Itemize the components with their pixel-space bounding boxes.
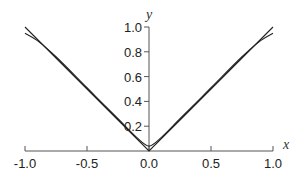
y-tick-label: 0.8 <box>124 45 142 60</box>
y-tick-label: 0.2 <box>124 119 142 134</box>
y-tick-label: 0.6 <box>124 70 142 85</box>
x-axis-label: x <box>282 137 290 152</box>
y-tick-label: 1.0 <box>124 20 142 35</box>
x-tick-label: 0.0 <box>140 156 158 171</box>
y-axis-label: y <box>144 7 153 22</box>
y-tick-label: 0.4 <box>124 94 142 109</box>
x-tick-label: -1.0 <box>14 156 36 171</box>
line-chart: -1.0-0.50.00.51.00.20.40.60.81.0xy <box>0 0 303 182</box>
x-tick-label: 0.5 <box>202 156 220 171</box>
x-tick-label: -0.5 <box>76 156 98 171</box>
axes <box>25 27 273 151</box>
tick-labels: -1.0-0.50.00.51.00.20.40.60.81.0xy <box>14 7 290 171</box>
x-tick-label: 1.0 <box>264 156 282 171</box>
